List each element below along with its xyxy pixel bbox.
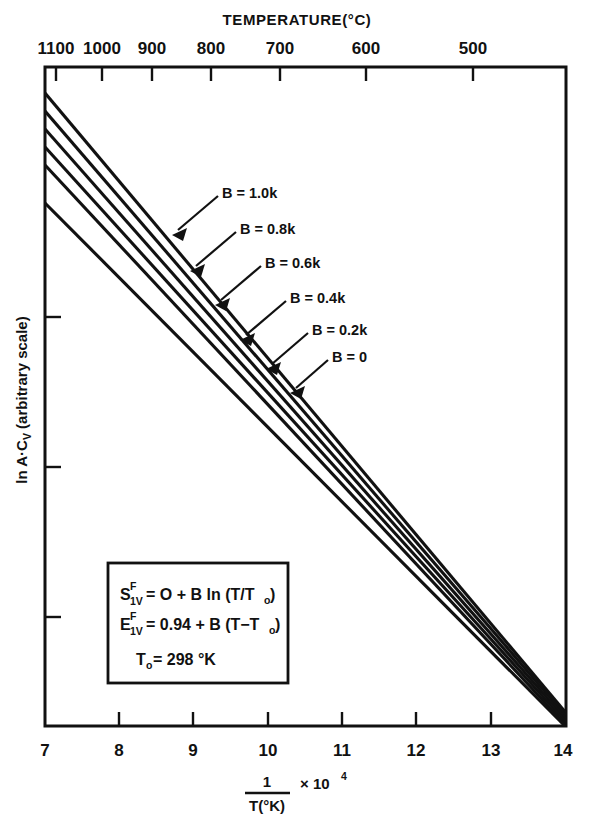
equation-line-1-close: )	[270, 586, 275, 603]
leader-b-0-8k	[190, 232, 236, 277]
leader-b-1-0k	[172, 196, 218, 241]
y-axis-label-text: ln A·CV (arbitrary scale)	[13, 316, 33, 483]
leader-b-0-4k	[240, 301, 286, 346]
top-tick-label-0: 1100	[38, 39, 75, 58]
curve-label-b-0-4k: B = 0.4k	[290, 290, 346, 306]
x-axis-label-numerator: 1	[263, 773, 271, 790]
x-tick-label-1: 8	[114, 741, 123, 760]
curve-label-b-1-0k: B = 1.0k	[222, 185, 278, 201]
top-tick-label-3: 800	[197, 39, 225, 58]
curve-label-b-0: B = 0	[332, 349, 367, 365]
y-axis-label-main: ln A·C	[13, 440, 30, 484]
x-tick-label-5: 12	[407, 741, 426, 760]
equation-line-1-rhs: = O + B ln (T/T	[146, 586, 255, 603]
equation-line-1-subscript: 1V	[130, 595, 143, 607]
arrhenius-plot: TEMPERATURE(°C) 1100 1000 900 800 700 60…	[0, 0, 594, 825]
x-tick-label-2: 9	[188, 741, 197, 760]
curve-label-b-0-2k: B = 0.2k	[312, 322, 368, 338]
curve-label-b-0-6k: B = 0.6k	[265, 255, 321, 271]
x-axis-label-multiplier: × 10	[300, 775, 330, 792]
equation-line-2-close: )	[275, 616, 280, 633]
leader-b-0-6k	[215, 266, 261, 311]
x-tick-label-3: 10	[259, 741, 278, 760]
equation-line-3-subscript: o	[146, 659, 152, 671]
equation-line-2-subscript: 1V	[130, 625, 143, 637]
equation-line-2-rhs: = 0.94 + B (T−T	[146, 616, 260, 633]
equation-line-2-superscript: F	[130, 610, 137, 622]
y-axis-label-subscript: V	[21, 433, 33, 440]
equation-line-3-symbol: T	[136, 651, 146, 668]
equation-line-1-superscript: F	[130, 580, 137, 592]
x-axis-label: 1 T(°K) × 10 4	[245, 770, 347, 814]
y-axis-label-tail: (arbitrary scale)	[13, 316, 30, 433]
x-axis-label-denominator: T(°K)	[249, 797, 285, 814]
x-tick-label-7: 14	[554, 741, 573, 760]
leader-b-0	[290, 360, 328, 399]
x-axis-label-exponent: 4	[341, 770, 347, 782]
top-tick-label-1: 1000	[83, 39, 121, 58]
top-tick-label-6: 500	[459, 39, 487, 58]
x-tick-label-0: 7	[40, 741, 49, 760]
curve-label-b-0-8k: B = 0.8k	[240, 221, 296, 237]
top-tick-label-4: 700	[266, 39, 294, 58]
x-tick-label-4: 11	[333, 741, 351, 760]
equation-line-3-rhs: = 298 °K	[153, 651, 216, 668]
x-tick-label-6: 13	[482, 741, 501, 760]
top-tick-label-5: 600	[352, 39, 380, 58]
leader-b-0-2k	[266, 333, 308, 375]
figure-page: TEMPERATURE(°C) 1100 1000 900 800 700 60…	[0, 0, 594, 825]
y-axis-label: ln A·CV (arbitrary scale)	[13, 316, 33, 483]
top-tick-label-2: 900	[138, 39, 166, 58]
top-axis-title: TEMPERATURE(°C)	[223, 11, 372, 28]
